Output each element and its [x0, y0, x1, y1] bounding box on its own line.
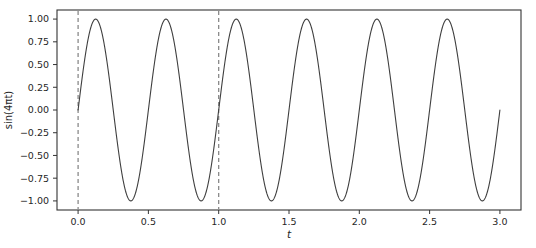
chart-svg: 0.00.51.01.52.02.53.0 −1.00−0.75−0.50−0.… [0, 0, 536, 248]
y-tick-label-2: −0.50 [20, 150, 49, 161]
x-tick-label-5: 2.5 [422, 216, 437, 227]
x-tick-label-3: 1.5 [281, 216, 296, 227]
figure-canvas: 0.00.51.01.52.02.53.0 −1.00−0.75−0.50−0.… [0, 0, 536, 248]
y-tick-label-4: 0.00 [28, 104, 49, 115]
x-tick-label-2: 1.0 [211, 216, 226, 227]
x-tick-label-0: 0.0 [71, 216, 86, 227]
y-tick-label-5: 0.25 [28, 82, 49, 93]
y-tick-label-8: 1.00 [28, 13, 49, 24]
y-tick-label-1: −0.75 [20, 173, 49, 184]
y-tick-label-3: −0.25 [20, 127, 49, 138]
y-tick-label-7: 0.75 [28, 36, 49, 47]
y-axis-title: sin(4πt) [3, 91, 14, 130]
y-tick-label-6: 0.50 [28, 59, 49, 70]
x-tick-label-4: 2.0 [352, 216, 367, 227]
x-tick-label-1: 0.5 [141, 216, 156, 227]
y-tick-label-0: −1.00 [20, 195, 49, 206]
x-tick-label-6: 3.0 [492, 216, 507, 227]
